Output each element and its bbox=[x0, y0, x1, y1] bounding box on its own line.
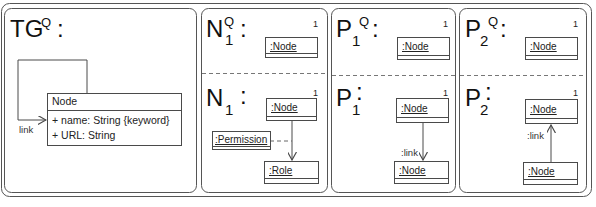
tg-title-sup: Q bbox=[41, 15, 51, 30]
p1-query-sub: 1 bbox=[352, 32, 360, 49]
p1-query-colon: : bbox=[372, 15, 379, 42]
svg-text::Node: :Node bbox=[271, 102, 298, 113]
multiplicity: 1 bbox=[443, 88, 448, 98]
p1-query-title: P bbox=[336, 15, 352, 42]
panel-n: N Q 1 : 1 :Node N 1 : 1 :Node :Permissio… bbox=[202, 9, 328, 193]
n-query-colon: : bbox=[240, 15, 247, 42]
n-query-title: N bbox=[206, 15, 223, 42]
p2-query-colon: : bbox=[500, 15, 507, 42]
svg-text::Node: :Node bbox=[530, 104, 557, 115]
object-node: :Node bbox=[267, 99, 317, 121]
n-pattern-sub: 1 bbox=[225, 101, 233, 118]
tg-title-colon: : bbox=[57, 15, 64, 42]
object-node: :Node bbox=[524, 163, 578, 185]
panel-p2: P Q 2 : 1 :Node P 2 : 1 :Node :link :Nod… bbox=[460, 9, 587, 193]
object-role: :Role bbox=[265, 162, 319, 184]
class-attribute: + URL: String bbox=[52, 129, 115, 141]
svg-text::Node: :Node bbox=[399, 165, 426, 176]
object-node: :Node bbox=[397, 99, 449, 123]
diagram-canvas: TG Q : link Node + name: String {keyword… bbox=[0, 0, 596, 207]
svg-text::Node: :Node bbox=[401, 103, 428, 114]
multiplicity: 1 bbox=[313, 88, 318, 98]
svg-text::Node: :Node bbox=[270, 41, 297, 52]
object-node: :Node bbox=[526, 100, 578, 124]
object-permission: :Permission bbox=[213, 132, 271, 150]
p1-query-sup: Q bbox=[359, 14, 369, 29]
panel-tg: TG Q : link Node + name: String {keyword… bbox=[5, 9, 197, 193]
multiplicity: 1 bbox=[313, 19, 318, 29]
p2-query-sub: 2 bbox=[480, 32, 488, 49]
p2-query-sup: Q bbox=[488, 14, 498, 29]
n-pattern-colon: : bbox=[240, 82, 247, 109]
object-node: :Node bbox=[266, 38, 318, 58]
p2-query-title: P bbox=[465, 15, 481, 42]
panel-p1: P Q 1 : 1 :Node P 1 : 1 :Node :link :Nod… bbox=[332, 9, 456, 193]
class-node: Node + name: String {keyword} + URL: Str… bbox=[48, 94, 182, 146]
svg-text::Node: :Node bbox=[528, 166, 555, 177]
class-attribute: + name: String {keyword} bbox=[52, 114, 170, 126]
svg-text::Permission: :Permission bbox=[215, 134, 267, 145]
p1-pattern-colon: : bbox=[356, 78, 363, 105]
p2-pattern-colon: : bbox=[485, 78, 492, 105]
svg-text::Role: :Role bbox=[269, 165, 293, 176]
svg-text::Node: :Node bbox=[530, 41, 557, 52]
n-query-sub: 1 bbox=[225, 31, 233, 48]
n-query-sup: Q bbox=[224, 14, 234, 29]
object-node: :Node bbox=[398, 38, 450, 60]
link-label: :link bbox=[401, 147, 418, 158]
p2-pattern-title: P bbox=[465, 84, 481, 111]
object-node: :Node bbox=[526, 38, 578, 60]
p1-pattern-title: P bbox=[336, 84, 352, 111]
link-label: :link bbox=[527, 130, 544, 141]
tg-title: TG bbox=[10, 15, 43, 42]
link-label: link bbox=[19, 124, 34, 135]
class-name: Node bbox=[52, 95, 77, 107]
multiplicity: 1 bbox=[443, 19, 448, 29]
object-node: :Node bbox=[395, 162, 449, 184]
multiplicity: 1 bbox=[573, 19, 578, 29]
multiplicity: 1 bbox=[573, 88, 578, 98]
n-pattern-title: N bbox=[206, 84, 223, 111]
svg-text::Node: :Node bbox=[402, 41, 429, 52]
